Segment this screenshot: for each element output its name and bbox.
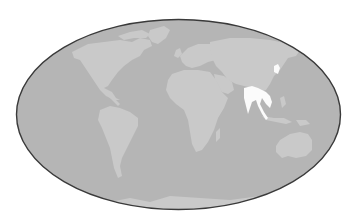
- world-map-svg: [0, 0, 358, 222]
- world-map: [0, 0, 358, 222]
- new-zealand: [324, 156, 328, 168]
